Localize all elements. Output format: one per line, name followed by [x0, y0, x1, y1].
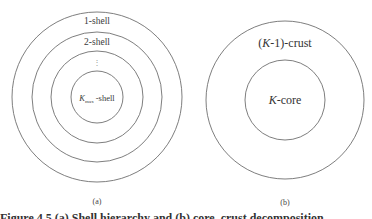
- kappa-symbol: K: [262, 36, 270, 50]
- figure-caption: Figure 4.5 (a) Shell hierarchy and (b) c…: [0, 211, 372, 219]
- panel-label-b: (b): [280, 198, 289, 207]
- crust-label-rest: -1)-crust: [270, 36, 311, 50]
- shell-suffix: -shell: [94, 93, 115, 103]
- core-label: K-core: [269, 94, 302, 106]
- panel-label-a: (a): [93, 197, 102, 206]
- nested-circles-diagram: [0, 0, 372, 219]
- shell-ellipsis-label: ⋮: [93, 59, 101, 67]
- crust-label: (K-1)-crust: [258, 37, 311, 49]
- max-subscript: max: [85, 99, 94, 104]
- core-label-rest: -core: [277, 93, 302, 107]
- shell-1-label: 1-shell: [84, 17, 110, 27]
- shell-kmax-label: Kmax -shell: [79, 94, 114, 104]
- kappa-symbol: K: [269, 93, 277, 107]
- shell-2-label: 2-shell: [84, 38, 110, 48]
